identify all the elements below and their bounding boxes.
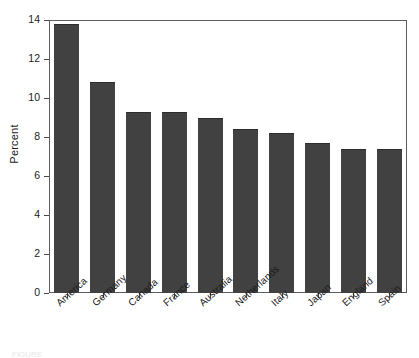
y-axis-tick-mark [44, 293, 49, 294]
y-axis-tick-label: 4 [34, 208, 40, 220]
y-axis-tick-label: 2 [34, 247, 40, 259]
bar [90, 82, 115, 293]
bar [341, 149, 366, 293]
y-axis-tick-label: 6 [34, 169, 40, 181]
caption-fragment: FIGURE [12, 350, 242, 357]
y-axis-tick-label: 14 [28, 13, 40, 25]
y-axis-tick-label: 8 [34, 130, 40, 142]
bar [233, 129, 258, 293]
bar [162, 112, 187, 293]
y-axis-tick-label: 12 [28, 52, 40, 64]
y-axis-tick-label: 0 [34, 286, 40, 298]
bar [305, 143, 330, 293]
bar [126, 112, 151, 293]
y-axis-tick-label: 10 [28, 91, 40, 103]
y-axis-title: Percent [8, 109, 20, 179]
bar-chart-figure: Percent 02468101214 AmericaGermanyCanada… [0, 0, 419, 358]
bar [198, 118, 223, 294]
bar [54, 24, 79, 293]
bar-series [49, 20, 407, 293]
bar [377, 149, 402, 293]
